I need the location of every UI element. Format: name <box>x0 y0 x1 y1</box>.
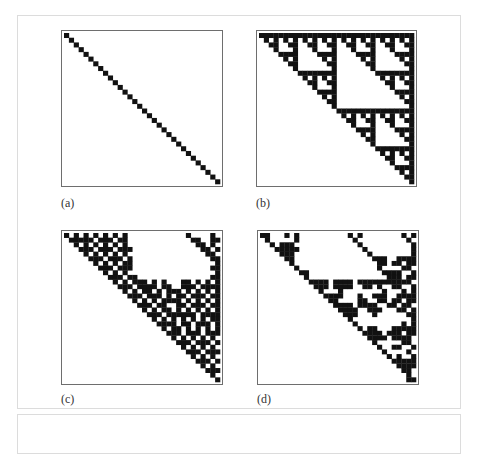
matrix-cell <box>409 61 414 66</box>
matrix-cell <box>404 127 409 132</box>
matrix-cell <box>293 47 298 52</box>
matrix-cell <box>399 132 404 137</box>
matrix-cell <box>69 38 74 43</box>
matrix-cell <box>322 94 327 99</box>
matrix-cell <box>152 317 157 322</box>
matrix-cell <box>210 266 215 271</box>
matrix-cell <box>210 331 215 336</box>
matrix-cell <box>303 38 308 43</box>
matrix-cell <box>278 33 283 38</box>
matrix-cell <box>196 289 201 294</box>
matrix-cell <box>88 256 93 261</box>
matrix-cell <box>186 289 191 294</box>
matrix-cell <box>385 71 390 76</box>
matrix-cell <box>215 340 220 345</box>
matrix-cell <box>196 160 201 165</box>
matrix-cell <box>332 57 337 62</box>
matrix-cell <box>411 261 416 266</box>
matrix-cell <box>205 298 210 303</box>
matrix-cell <box>351 109 356 114</box>
matrix-cell <box>79 47 84 52</box>
matrix-cell <box>348 284 353 289</box>
matrix-cell <box>332 99 337 104</box>
matrix-cell <box>191 312 196 317</box>
panel-label-d: (d) <box>257 392 271 407</box>
matrix-panel-a <box>61 30 223 187</box>
matrix-cell <box>215 349 220 354</box>
matrix-cell <box>397 354 402 359</box>
matrix-cell <box>176 326 181 331</box>
matrix-cell <box>312 75 317 80</box>
matrix-cell <box>397 326 402 331</box>
matrix-cell <box>327 33 332 38</box>
matrix-cell <box>338 294 343 299</box>
matrix-cell <box>370 118 375 123</box>
matrix-cell <box>358 298 363 303</box>
matrix-cell <box>411 345 416 350</box>
matrix-cell <box>409 118 414 123</box>
matrix-cell <box>406 340 411 345</box>
matrix-cell <box>385 146 390 151</box>
matrix-cell <box>366 61 371 66</box>
matrix-cell <box>392 335 397 340</box>
matrix-cell <box>319 280 324 285</box>
matrix-cell <box>113 80 118 85</box>
matrix-cell <box>411 289 416 294</box>
matrix-cell <box>411 270 416 275</box>
matrix-cell <box>123 233 128 238</box>
matrix-cell <box>406 280 411 285</box>
matrix-cell <box>372 294 377 299</box>
matrix-cell <box>152 284 157 289</box>
matrix-cell <box>215 303 220 308</box>
matrix-cell <box>377 261 382 266</box>
matrix-cell <box>191 354 196 359</box>
matrix-cell <box>171 331 176 336</box>
matrix-cell <box>205 308 210 313</box>
matrix-cell <box>362 280 367 285</box>
matrix-cell <box>201 335 206 340</box>
matrix-cell <box>327 90 332 95</box>
matrix-cell <box>341 38 346 43</box>
matrix-cell <box>392 345 397 350</box>
matrix-cell <box>186 321 191 326</box>
matrix-cell <box>372 335 377 340</box>
matrix-cell <box>404 71 409 76</box>
matrix-cell <box>312 33 317 38</box>
matrix-cell <box>98 247 103 252</box>
matrix-cell <box>137 280 142 285</box>
matrix-cell <box>118 266 123 271</box>
matrix-cell <box>210 175 215 180</box>
matrix-cell <box>147 284 152 289</box>
matrix-cell <box>401 289 406 294</box>
matrix-cell <box>113 233 118 238</box>
matrix-cell <box>377 308 382 313</box>
matrix-cell <box>332 42 337 47</box>
matrix-cell <box>385 156 390 161</box>
matrix-cell <box>215 256 220 261</box>
matrix-cell <box>409 104 414 109</box>
matrix-cell <box>337 109 342 114</box>
matrix-cell <box>280 242 285 247</box>
panel-label-a: (a) <box>61 196 74 211</box>
matrix-cell <box>397 261 402 266</box>
matrix-cell <box>404 99 409 104</box>
matrix-cell <box>399 146 404 151</box>
matrix-cell <box>171 289 176 294</box>
matrix-cell <box>409 175 414 180</box>
matrix-cell <box>409 113 414 118</box>
matrix-cell <box>390 42 395 47</box>
matrix-cell <box>377 266 382 271</box>
matrix-cell <box>284 242 289 247</box>
matrix-cell <box>348 312 353 317</box>
matrix-cell <box>196 280 201 285</box>
matrix-cell <box>196 331 201 336</box>
matrix-cell <box>397 275 402 280</box>
matrix-cell <box>215 275 220 280</box>
matrix-cell <box>382 289 387 294</box>
matrix-cell <box>337 33 342 38</box>
matrix-cell <box>88 238 93 243</box>
matrix-cell <box>186 151 191 156</box>
matrix-cell <box>385 80 390 85</box>
matrix-cell <box>348 303 353 308</box>
matrix-cell <box>93 256 98 261</box>
